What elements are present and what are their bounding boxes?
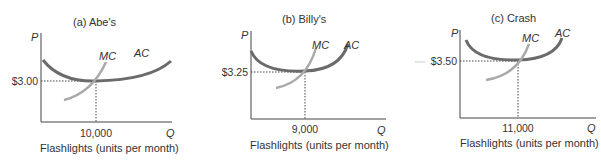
y-axis-label: P xyxy=(31,31,39,43)
price-tick: $3.25 xyxy=(222,66,248,78)
mc-label: MC xyxy=(99,50,116,62)
quantity-tick: 9,000 xyxy=(292,123,318,135)
mc-curve xyxy=(276,48,316,88)
mc-label: MC xyxy=(522,32,539,44)
x-axis-caption: Flashlights (units per month) xyxy=(250,139,389,151)
ac-label: AC xyxy=(343,39,359,51)
x-axis-caption: Flashlights (units per month) xyxy=(40,142,179,154)
mc-curve xyxy=(486,44,529,80)
quantity-tick: 11,000 xyxy=(502,122,533,134)
ac-curve xyxy=(251,44,348,71)
price-tick: $3.50 xyxy=(431,55,457,67)
x-axis-label: Q xyxy=(166,127,175,139)
y-axis-label: P xyxy=(451,27,459,39)
panel-title: (a) Abe's xyxy=(73,16,117,28)
ac-curve xyxy=(466,38,562,60)
panel-billys: (b) Billy's P MC AC $3.25 9,000 Q Flashl… xyxy=(222,13,389,151)
price-tick: $3.00 xyxy=(12,75,38,87)
mc-label: MC xyxy=(312,39,329,51)
x-axis-label: Q xyxy=(587,122,596,134)
ac-label: AC xyxy=(133,47,149,59)
ac-label: AC xyxy=(554,27,570,39)
panel-abes: (a) Abe's P MC AC $3.00 10,000 Q Flashli… xyxy=(12,16,179,154)
x-axis-label: Q xyxy=(377,124,386,136)
panel-crash: (c) Crash P MC AC $3.50 11,000 Q Flashli… xyxy=(415,12,599,149)
y-axis-label: P xyxy=(241,29,249,41)
figure: (a) Abe's P MC AC $3.00 10,000 Q Flashli… xyxy=(0,0,601,161)
ac-curve xyxy=(43,60,171,81)
quantity-tick: 10,000 xyxy=(80,127,112,139)
panel-title: (b) Billy's xyxy=(282,13,327,25)
panel-title: (c) Crash xyxy=(491,12,536,24)
x-axis-caption: Flashlights (units per month) xyxy=(460,137,599,149)
